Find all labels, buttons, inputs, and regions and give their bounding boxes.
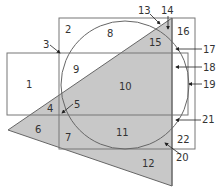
label-5: 5 — [74, 99, 80, 110]
label-7: 7 — [65, 132, 71, 143]
label-9: 9 — [73, 64, 79, 75]
label-18: 18 — [203, 62, 216, 73]
region-diagram: 1 2 3 4 5 6 7 8 9 10 11 12 13 14 15 16 1… — [0, 0, 217, 187]
label-3: 3 — [43, 39, 49, 50]
label-1: 1 — [26, 79, 32, 90]
label-19: 19 — [203, 79, 216, 90]
label-8: 8 — [107, 28, 113, 39]
arrow-13 — [150, 14, 160, 24]
label-15: 15 — [149, 37, 162, 48]
label-13: 13 — [138, 5, 151, 16]
label-11: 11 — [116, 127, 129, 138]
label-16: 16 — [177, 26, 190, 37]
label-4: 4 — [47, 103, 53, 114]
label-22: 22 — [177, 134, 190, 145]
label-10: 10 — [119, 81, 132, 92]
label-20: 20 — [176, 152, 189, 163]
label-12: 12 — [142, 158, 155, 169]
label-2: 2 — [65, 24, 71, 35]
label-21: 21 — [202, 114, 215, 125]
label-6: 6 — [35, 124, 41, 135]
label-17: 17 — [203, 44, 216, 55]
label-14: 14 — [161, 5, 174, 16]
